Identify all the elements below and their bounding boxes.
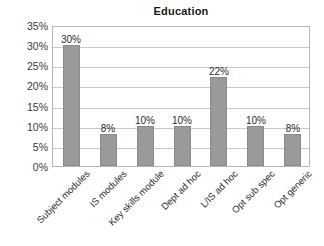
bar-value-label: 10%	[172, 115, 192, 126]
y-axis: 0%5%10%15%20%25%30%35%	[0, 26, 48, 167]
chart-title: Education	[52, 4, 310, 18]
bar	[137, 126, 154, 166]
bar-value-label: 8%	[101, 123, 115, 134]
x-axis: Subject modulesIS modulesKey skills modu…	[52, 168, 324, 246]
x-tick-label: Opt generic	[271, 168, 314, 211]
bar	[174, 126, 191, 166]
bar	[284, 134, 301, 166]
bar	[210, 77, 227, 166]
bar-chart: Education 0%5%10%15%20%25%30%35% 30%8%10…	[0, 0, 324, 246]
plot-area: 30%8%10%10%22%10%8%	[52, 26, 310, 167]
y-tick-label: 15%	[0, 101, 48, 112]
y-tick-label: 0%	[0, 162, 48, 173]
y-tick-label: 25%	[0, 61, 48, 72]
x-tick-label: Subject modules	[35, 168, 92, 225]
y-tick-label: 10%	[0, 121, 48, 132]
gridline	[53, 108, 309, 109]
bar-value-label: 10%	[246, 115, 266, 126]
bar	[247, 126, 264, 166]
gridline	[53, 87, 309, 88]
bar	[63, 45, 80, 166]
bar-value-label: 22%	[209, 66, 229, 77]
bar-value-label: 8%	[286, 123, 300, 134]
y-tick-label: 30%	[0, 41, 48, 52]
gridline	[53, 67, 309, 68]
y-tick-label: 5%	[0, 141, 48, 152]
bar-value-label: 30%	[61, 34, 81, 45]
y-tick-label: 20%	[0, 81, 48, 92]
bar	[100, 134, 117, 166]
bar-value-label: 10%	[135, 115, 155, 126]
y-tick-label: 35%	[0, 21, 48, 32]
gridline	[53, 47, 309, 48]
